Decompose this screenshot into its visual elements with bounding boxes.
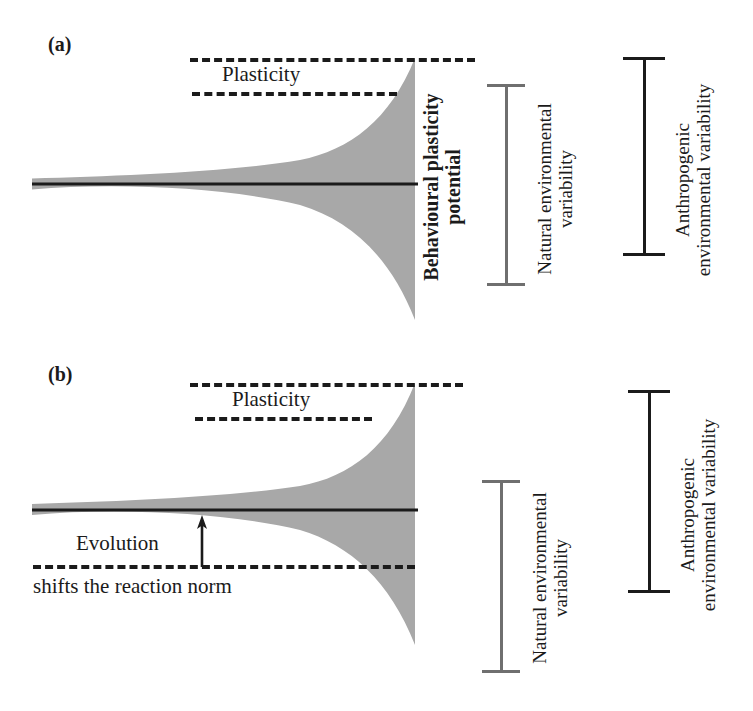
evolution-arrow-b bbox=[185, 511, 225, 569]
behavioural-plasticity-potential-label-a: Behavioural plasticity potential bbox=[420, 52, 465, 322]
bar-stem bbox=[500, 480, 503, 673]
panel-b: (b) Plasticity Evolution shifts the reac… bbox=[0, 355, 753, 711]
plasticity-upper-dashed-b bbox=[190, 383, 463, 387]
fan-area-a bbox=[32, 58, 415, 320]
bar-cap-bottom bbox=[628, 590, 670, 593]
bar-cap-bottom bbox=[487, 283, 525, 286]
evolution-label-b: Evolution bbox=[76, 533, 159, 554]
natural-label-line2: variability bbox=[555, 64, 576, 314]
behavioural-label-line1: Behavioural plasticity bbox=[420, 52, 442, 322]
bar-stem bbox=[643, 57, 646, 256]
panel-a: (a) Plasticity Behavioural plasticity po… bbox=[0, 0, 753, 356]
anthropogenic-variability-bar-a bbox=[623, 57, 665, 256]
shifted-reaction-norm-dashed-b bbox=[33, 565, 415, 569]
natural-label-line1: Natural environmental bbox=[534, 64, 555, 314]
reaction-norm-figure: (a) Plasticity Behavioural plasticity po… bbox=[0, 0, 753, 711]
anthropogenic-variability-label-a: Anthropogenic environmental variability bbox=[672, 40, 715, 320]
plasticity-lower-dashed-b bbox=[195, 417, 372, 421]
bar-cap-bottom bbox=[482, 670, 520, 673]
natural-label-line2: variability bbox=[550, 453, 571, 703]
panel-letter-a: (a) bbox=[48, 34, 71, 54]
bar-stem bbox=[505, 84, 508, 286]
bar-cap-bottom bbox=[623, 253, 665, 256]
anthropogenic-label-line1: Anthropogenic bbox=[677, 375, 698, 655]
anthropogenic-label-line2: environmental variability bbox=[698, 375, 719, 655]
bar-stem bbox=[648, 390, 651, 593]
plasticity-lower-dashed-a bbox=[192, 92, 397, 96]
panel-letter-b: (b) bbox=[48, 364, 72, 384]
plasticity-label-a: Plasticity bbox=[222, 64, 300, 85]
plasticity-label-b: Plasticity bbox=[232, 389, 310, 410]
natural-variability-label-b: Natural environmental variability bbox=[529, 453, 572, 703]
behavioural-label-line2: potential bbox=[442, 52, 464, 322]
anthropogenic-label-line2: environmental variability bbox=[693, 40, 714, 320]
anthropogenic-label-line1: Anthropogenic bbox=[672, 40, 693, 320]
natural-variability-label-a: Natural environmental variability bbox=[534, 64, 577, 314]
anthropogenic-variability-label-b: Anthropogenic environmental variability bbox=[677, 375, 720, 655]
natural-variability-bar-a bbox=[487, 84, 525, 286]
anthropogenic-variability-bar-b bbox=[628, 390, 670, 593]
evolution-sub-label-b: shifts the reaction norm bbox=[33, 576, 232, 597]
natural-label-line1: Natural environmental bbox=[529, 453, 550, 703]
natural-variability-bar-b bbox=[482, 480, 520, 673]
